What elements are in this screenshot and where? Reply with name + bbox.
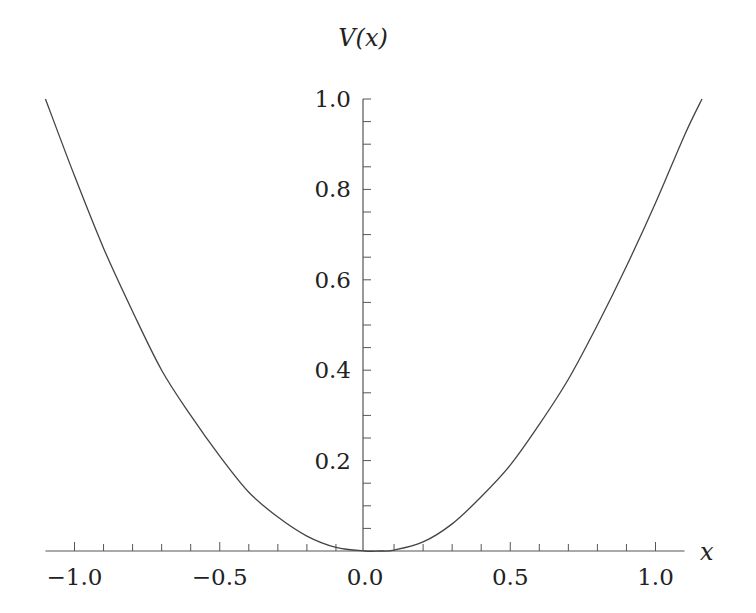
x-tick-label: −1.0 xyxy=(47,564,103,590)
x-axis-label: x xyxy=(700,538,714,566)
x-tick-label: 0.0 xyxy=(347,564,384,590)
potential-curve xyxy=(45,99,702,551)
y-tick-label: 0.2 xyxy=(314,448,351,474)
plot-curves xyxy=(45,99,702,551)
y-tick-label: 0.8 xyxy=(314,176,351,202)
x-tick-label: 1.0 xyxy=(637,564,674,590)
potential-plot: −1.0−0.50.00.51.0 0.20.40.60.81.0 x V(x) xyxy=(0,0,756,613)
x-tick-label: −0.5 xyxy=(192,564,248,590)
y-axis: 0.20.40.60.81.0 xyxy=(314,86,371,551)
y-tick-label: 0.4 xyxy=(314,357,351,383)
y-tick-label: 0.6 xyxy=(314,267,351,293)
y-tick-label: 1.0 xyxy=(314,86,351,112)
x-tick-label: 0.5 xyxy=(492,564,529,590)
y-axis-label: V(x) xyxy=(338,24,388,52)
x-axis: −1.0−0.50.00.51.0 xyxy=(45,542,684,590)
